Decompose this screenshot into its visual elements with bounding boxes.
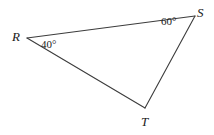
vertex-label-T: T <box>141 115 148 128</box>
angle-measure-at-R: 40° <box>41 39 56 50</box>
vertex-label-S: S <box>197 6 204 19</box>
triangle-figure: R S T 40° 60° <box>0 0 214 135</box>
triangle-drawing <box>0 0 214 135</box>
vertex-label-R: R <box>12 30 20 43</box>
side-ST <box>145 16 195 108</box>
angle-measure-at-S: 60° <box>161 16 176 27</box>
